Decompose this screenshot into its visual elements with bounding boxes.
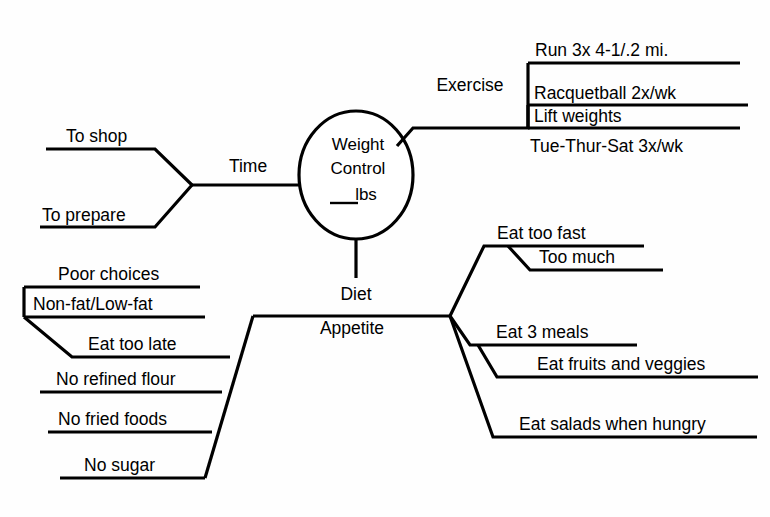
center-node-line2: Control bbox=[331, 159, 386, 178]
appetite-item-eat-salads-label: Eat salads when hungry bbox=[519, 414, 706, 434]
diet-branch[interactable]: Diet bbox=[340, 239, 371, 304]
center-node[interactable]: Weight Control lbs bbox=[299, 111, 413, 239]
appetite-item-eat-3-meals-label: Eat 3 meals bbox=[496, 322, 589, 342]
diet-branch-label: Diet bbox=[340, 284, 371, 304]
appetite-branch[interactable]: Appetite bbox=[253, 316, 450, 338]
time-item-to-shop-label: To shop bbox=[66, 126, 127, 146]
center-node-line1: Weight bbox=[332, 135, 385, 154]
appetite-item-eat-too-late-label: Eat too late bbox=[88, 334, 177, 354]
exercise-item-schedule-label: Tue-Thur-Sat 3x/wk bbox=[530, 136, 683, 156]
mindmap-diagram: Weight Control lbs Run 3x 4-1/.2 mi. Rac… bbox=[0, 0, 770, 517]
appetite-item-poor-choices-label: Poor choices bbox=[58, 264, 159, 284]
time-item-to-prepare-label: To prepare bbox=[42, 205, 126, 225]
appetite-branch-label: Appetite bbox=[320, 318, 384, 338]
mindmap-canvas: Weight Control lbs Run 3x 4-1/.2 mi. Rac… bbox=[0, 0, 770, 517]
exercise-branch[interactable]: Run 3x 4-1/.2 mi. Racquetball 2x/wk Lift… bbox=[397, 40, 748, 156]
exercise-item-run-label: Run 3x 4-1/.2 mi. bbox=[535, 40, 668, 60]
exercise-item-racquetball-label: Racquetball 2x/wk bbox=[534, 83, 676, 103]
time-branch-to-shop-line bbox=[46, 149, 192, 185]
appetite-right-groups[interactable]: Eat too fast Too much Eat 3 meals Eat fr… bbox=[450, 223, 758, 437]
appetite-item-too-much-label: Too much bbox=[539, 247, 615, 267]
center-node-line3: lbs bbox=[355, 185, 377, 204]
appetite-left-groups[interactable]: Poor choices Non-fat/Low-fat Eat too lat… bbox=[24, 264, 253, 478]
appetite-item-eat-too-fast-label: Eat too fast bbox=[497, 223, 586, 243]
appetite-item-no-refined-flour-label: No refined flour bbox=[56, 369, 176, 389]
appetite-item-non-fat-label: Non-fat/Low-fat bbox=[33, 294, 153, 314]
appetite-item-eat-fruits-label: Eat fruits and veggies bbox=[537, 354, 706, 374]
exercise-branch-label: Exercise bbox=[436, 75, 503, 95]
time-branch-label: Time bbox=[229, 156, 267, 176]
exercise-stem bbox=[397, 105, 528, 146]
appetite-item-no-sugar-label: No sugar bbox=[84, 455, 155, 475]
time-branch[interactable]: To shop To prepare Time bbox=[40, 126, 299, 227]
appetite-item-no-fried-foods-label: No fried foods bbox=[58, 409, 167, 429]
exercise-item-lift-label: Lift weights bbox=[534, 106, 622, 126]
appetite-left-riser bbox=[205, 316, 253, 478]
